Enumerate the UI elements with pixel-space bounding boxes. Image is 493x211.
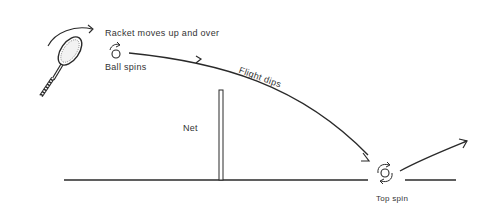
bounce-path [400,141,467,171]
flight-direction-arrow [196,56,201,63]
top-spin-ball-icon [378,162,392,184]
net-post [219,90,223,180]
tennis-topspin-diagram: Racket moves up and over Ball spins Flig… [0,0,493,211]
spinning-ball-icon [110,42,120,58]
net-label: Net [183,123,198,133]
top-spin-label: Top spin [376,194,408,203]
diagram-canvas [0,0,493,211]
tennis-racket-icon [41,33,87,96]
racket-motion-label: Racket moves up and over [105,28,219,38]
ball-spin-label: Ball spins [105,62,147,72]
